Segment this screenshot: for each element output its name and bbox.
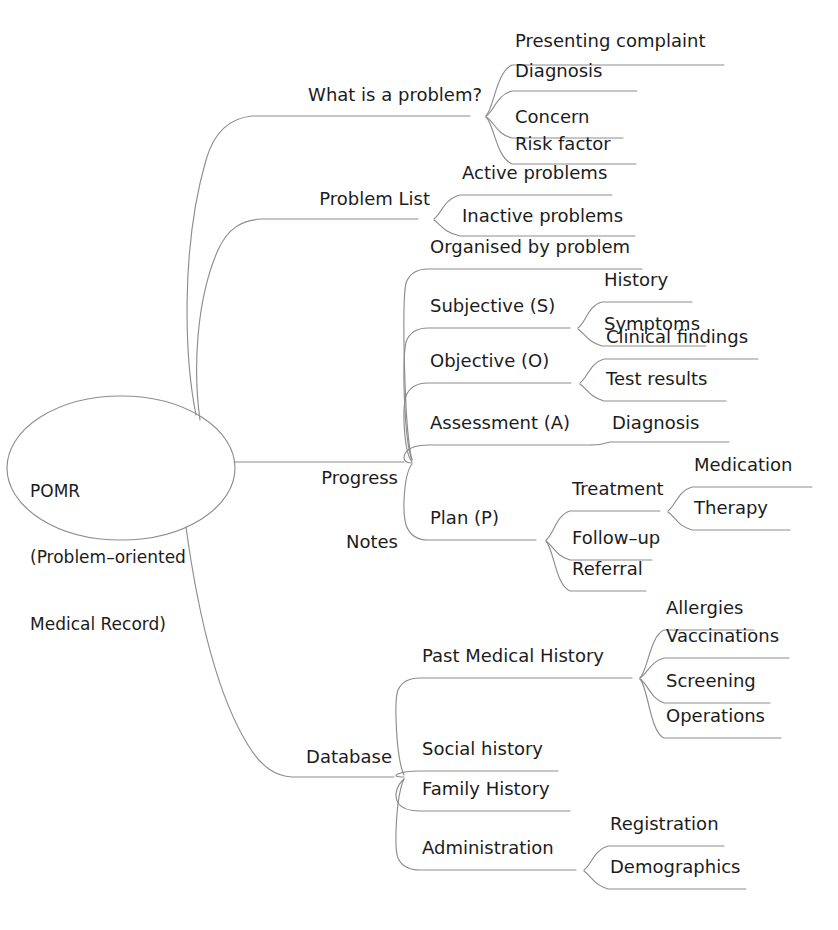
- node-objective[interactable]: Objective (O): [430, 350, 549, 371]
- node-what-is-a-problem[interactable]: What is a problem?: [270, 84, 482, 105]
- root-node-label: POMR (Problem–oriented Medical Record): [30, 436, 220, 679]
- node-database[interactable]: Database: [250, 746, 392, 767]
- node-demographics[interactable]: Demographics: [610, 856, 740, 877]
- node-medication[interactable]: Medication: [694, 454, 792, 475]
- wire-past-medical-history: [396, 678, 632, 775]
- node-problem-list[interactable]: Problem List: [260, 188, 430, 209]
- wire-diagnosis-assessment: [592, 442, 729, 445]
- node-test-results[interactable]: Test results: [606, 368, 707, 389]
- node-referral[interactable]: Referral: [572, 558, 643, 579]
- node-follow-up[interactable]: Follow–up: [572, 527, 660, 548]
- node-treatment[interactable]: Treatment: [572, 478, 664, 499]
- trunk-what-is-a-problem: [187, 116, 470, 415]
- node-registration[interactable]: Registration: [610, 813, 719, 834]
- node-subjective[interactable]: Subjective (S): [430, 295, 555, 316]
- root-line-3: Medical Record): [30, 613, 220, 635]
- root-line-2: (Problem–oriented: [30, 546, 220, 568]
- node-family-history[interactable]: Family History: [422, 778, 550, 799]
- node-plan[interactable]: Plan (P): [430, 507, 499, 528]
- node-social-history[interactable]: Social history: [422, 738, 543, 759]
- node-risk-factor[interactable]: Risk factor: [515, 133, 611, 154]
- wire-social-history: [396, 771, 558, 777]
- node-history[interactable]: History: [604, 269, 668, 290]
- node-active-problems[interactable]: Active problems: [462, 162, 607, 183]
- mind-map-canvas: POMR (Problem–oriented Medical Record) W…: [0, 0, 838, 930]
- root-line-1: POMR: [30, 480, 220, 502]
- node-screening[interactable]: Screening: [666, 670, 756, 691]
- node-operations[interactable]: Operations: [666, 705, 765, 726]
- node-progress-notes-line-2: Notes: [256, 531, 398, 552]
- node-vaccinations[interactable]: Vaccinations: [666, 625, 779, 646]
- node-progress-notes[interactable]: Progress Notes: [256, 425, 398, 595]
- node-diagnosis-assessment[interactable]: Diagnosis: [612, 412, 700, 433]
- wire-assessment: [404, 445, 592, 463]
- node-concern[interactable]: Concern: [515, 106, 589, 127]
- node-assessment[interactable]: Assessment (A): [430, 412, 570, 433]
- node-diagnosis-problem[interactable]: Diagnosis: [515, 60, 603, 81]
- node-administration[interactable]: Administration: [422, 837, 554, 858]
- wire-subjective: [404, 328, 570, 460]
- node-organised-by-problem[interactable]: Organised by problem: [430, 236, 630, 257]
- wire-plan: [404, 464, 536, 540]
- node-inactive-problems[interactable]: Inactive problems: [462, 205, 623, 226]
- node-progress-notes-line-1: Progress: [256, 467, 398, 488]
- node-past-medical-history[interactable]: Past Medical History: [422, 645, 604, 666]
- trunk-problem-list: [197, 219, 418, 420]
- node-therapy[interactable]: Therapy: [694, 497, 768, 518]
- node-clinical-findings[interactable]: Clinical findings: [606, 326, 748, 347]
- node-allergies[interactable]: Allergies: [666, 597, 743, 618]
- node-presenting-complaint[interactable]: Presenting complaint: [515, 30, 705, 51]
